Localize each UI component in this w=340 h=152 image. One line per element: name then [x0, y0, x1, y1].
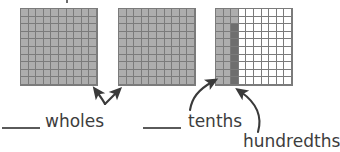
grid-cell — [59, 47, 67, 55]
grid-cell — [127, 55, 135, 63]
grid-cell — [224, 55, 232, 63]
grid-cell — [187, 32, 195, 40]
grid-cell — [29, 77, 37, 85]
grid-cell — [59, 62, 67, 70]
grid-cell — [224, 24, 232, 32]
grid-cell — [36, 17, 44, 25]
grid-cell — [284, 77, 292, 85]
grid-cell — [142, 9, 150, 17]
grid-cell — [216, 9, 224, 17]
grid-cell — [187, 9, 195, 17]
grid-cell — [142, 62, 150, 70]
grid-cell — [246, 9, 254, 17]
grid-cell — [165, 70, 173, 78]
grid-cell — [74, 62, 82, 70]
grid-cell — [216, 62, 224, 70]
grid-cell — [51, 47, 59, 55]
grid-cell — [36, 77, 44, 85]
grid-cell — [224, 17, 232, 25]
grid-cell — [21, 24, 29, 32]
grid-cell — [246, 32, 254, 40]
grid-cell — [82, 24, 90, 32]
grid-cell — [74, 47, 82, 55]
grid-cell — [231, 24, 239, 32]
grid-cell — [134, 9, 142, 17]
grid-cell — [142, 32, 150, 40]
grid-cell — [284, 47, 292, 55]
hundred-grid-whole-2 — [118, 8, 196, 86]
grid-cell — [82, 70, 90, 78]
grid-cell — [44, 24, 52, 32]
grid-cell — [180, 77, 188, 85]
hundred-grid-partial-3 — [215, 8, 293, 86]
grid-cell — [29, 55, 37, 63]
grid-cell — [67, 24, 75, 32]
grid-cell — [44, 32, 52, 40]
grid-cell — [172, 62, 180, 70]
grid-cell — [231, 70, 239, 78]
grid-cell — [67, 9, 75, 17]
grid-cell — [187, 17, 195, 25]
grid-cell — [74, 70, 82, 78]
grid-cell — [269, 70, 277, 78]
grid-cell — [165, 55, 173, 63]
grid-cell — [67, 77, 75, 85]
grid-cell — [51, 62, 59, 70]
grid-cell — [59, 17, 67, 25]
grid-cell — [74, 17, 82, 25]
answer-blank-tenths[interactable] — [143, 127, 181, 129]
grid-cell — [262, 32, 270, 40]
answer-blank-wholes[interactable] — [2, 127, 40, 129]
grid-cell — [157, 39, 165, 47]
grid-cell — [119, 47, 127, 55]
grid-cell — [44, 62, 52, 70]
grid-cell — [231, 39, 239, 47]
grid-cell — [67, 55, 75, 63]
grid-cell — [89, 55, 97, 63]
grid-cell — [119, 77, 127, 85]
grid-cell — [44, 77, 52, 85]
grid-cell — [246, 39, 254, 47]
grid-cell — [239, 39, 247, 47]
grid-cell — [119, 17, 127, 25]
grid-cell — [277, 17, 285, 25]
grid-cell — [36, 70, 44, 78]
grid-cell — [36, 9, 44, 17]
grid-cell — [284, 55, 292, 63]
grid-cell — [127, 9, 135, 17]
grid-cell — [216, 70, 224, 78]
label-hundredths: hundredths — [243, 133, 340, 150]
grid-cell — [254, 70, 262, 78]
grid-cell — [134, 39, 142, 47]
grid-cell — [44, 47, 52, 55]
grid-cell — [172, 32, 180, 40]
grid-cell — [277, 62, 285, 70]
grid-cell — [165, 24, 173, 32]
grid-cell — [142, 55, 150, 63]
grid-cell — [29, 9, 37, 17]
grid-cell — [172, 77, 180, 85]
grid-cell — [149, 24, 157, 32]
grid-cell — [269, 17, 277, 25]
grid-cell — [59, 24, 67, 32]
grid-cell — [180, 24, 188, 32]
grid-cell — [172, 70, 180, 78]
grid-cell — [36, 47, 44, 55]
grid-cell — [29, 24, 37, 32]
grid-cell — [231, 32, 239, 40]
grid-cell — [134, 47, 142, 55]
grid-cell — [187, 55, 195, 63]
grid-cell — [277, 9, 285, 17]
grid-cell — [51, 24, 59, 32]
grid-cell — [36, 24, 44, 32]
grid-cell — [67, 62, 75, 70]
grid-cell — [239, 77, 247, 85]
grid-cell — [246, 55, 254, 63]
grid-cell — [224, 39, 232, 47]
grid-cell — [262, 70, 270, 78]
grid-cell — [67, 17, 75, 25]
grid-cell — [36, 32, 44, 40]
grid-cell — [82, 9, 90, 17]
grid-cell — [254, 17, 262, 25]
grid-cell — [119, 32, 127, 40]
